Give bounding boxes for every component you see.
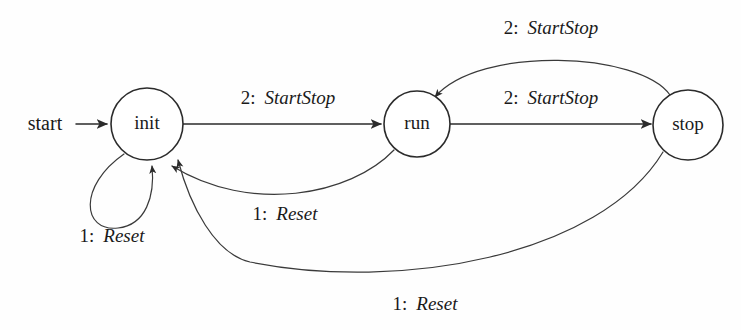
edge-label-event: StartStop [528,87,599,108]
edge-label-run-to-init: 1: Reset [253,203,319,224]
state-machine-diagram: start 2: StartStop 2: StartStop 2: Start… [0,0,741,330]
edge-label-number: 2: [504,17,519,38]
state-node-stop[interactable]: stop [653,90,723,160]
edge-label-number: 1: [253,203,268,224]
state-label-run: run [404,112,430,133]
transition-run-to-stop: 2: StartStop [450,87,651,124]
edge-label-event: Reset [102,225,145,246]
edge-label-event: Reset [275,203,318,224]
transition-stop-to-init: 1: Reset [178,152,663,314]
edge-label-number: 1: [80,225,95,246]
state-label-stop: stop [672,113,704,134]
edge-label-number: 2: [241,87,256,108]
transition-run-to-init: 1: Reset [172,150,394,224]
state-label-init: init [134,112,160,133]
transition-stop-to-run: 2: StartStop [435,17,670,97]
state-node-run[interactable]: run [384,91,450,157]
edge-run-to-init [172,150,394,194]
edge-label-number: 2: [504,87,519,108]
edge-label-event: StartStop [265,87,336,108]
transition-init-to-run: 2: StartStop [183,87,381,124]
state-node-init[interactable]: init [111,88,183,160]
edge-label-event: StartStop [528,17,599,38]
state-diagram-canvas: start 2: StartStop 2: StartStop 2: Start… [0,0,741,330]
edge-label-event: Reset [415,293,458,314]
edge-label-run-to-stop: 2: StartStop [504,87,599,108]
edge-label-number: 1: [393,293,408,314]
start-marker: start [28,112,107,134]
edge-label-init-to-run: 2: StartStop [241,87,336,108]
edge-label-stop-to-init: 1: Reset [393,293,459,314]
edge-label-stop-to-run: 2: StartStop [504,17,599,38]
transition-init-self-loop: 1: Reset [80,154,153,246]
edge-init-self-loop [90,154,152,228]
edge-label-init-self-loop: 1: Reset [80,225,146,246]
start-label: start [28,112,63,134]
edge-stop-to-init [178,152,663,272]
